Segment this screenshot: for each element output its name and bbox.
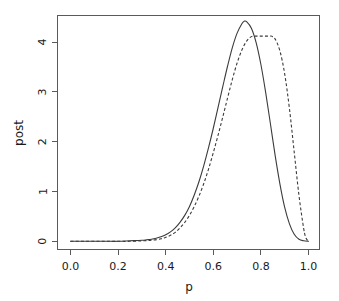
- y-axis-ticks: [52, 42, 57, 241]
- data-curves: [71, 21, 309, 241]
- x-tick-label: 0.2: [109, 260, 127, 273]
- y-tick-label: 2: [37, 138, 50, 145]
- x-tick-label: 0.6: [205, 260, 223, 273]
- y-tick-label: 3: [37, 88, 50, 95]
- x-tick-label: 0.8: [252, 260, 270, 273]
- x-tick-label: 1.0: [300, 260, 318, 273]
- y-tick-label: 4: [37, 39, 50, 46]
- y-tick-label: 1: [37, 188, 50, 195]
- x-axis-tick-labels: 0.0 0.2 0.4 0.6 0.8 1.0: [62, 260, 318, 273]
- plot-frame-box: [58, 16, 320, 250]
- x-axis-ticks: [71, 250, 309, 255]
- x-tick-label: 0.0: [62, 260, 80, 273]
- curve-solid-posterior: [71, 21, 309, 241]
- plot-canvas: 0.0 0.2 0.4 0.6 0.8 1.0 0 1 2 3 4 p post: [0, 0, 339, 301]
- x-tick-label: 0.4: [157, 260, 175, 273]
- x-axis-title: p: [185, 280, 193, 294]
- y-tick-label: 0: [37, 238, 50, 245]
- r-plot-figure: 0.0 0.2 0.4 0.6 0.8 1.0 0 1 2 3 4 p post: [0, 0, 339, 301]
- y-axis-title: post: [12, 120, 26, 146]
- y-axis-tick-labels: 0 1 2 3 4: [37, 39, 50, 245]
